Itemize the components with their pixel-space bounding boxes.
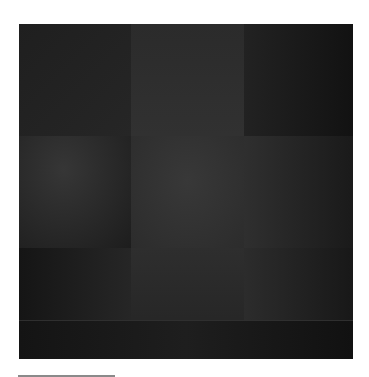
horizontal-band [19,320,353,359]
block-mid-left [19,136,131,248]
block-top-right [244,24,353,136]
block-top-center [131,24,244,136]
block-top-left [19,24,131,136]
block-mid-right [244,136,353,248]
block-mid-center [131,136,244,248]
abstract-painting [19,24,353,359]
